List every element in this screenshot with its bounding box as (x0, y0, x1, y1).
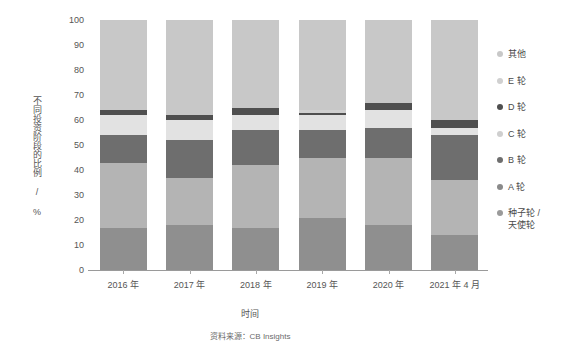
bar-segment[interactable] (365, 158, 412, 226)
legend-swatch-icon (497, 157, 503, 163)
bar-segment[interactable] (365, 110, 412, 128)
y-tick-label: 10 (58, 240, 84, 250)
bar-segment[interactable] (431, 128, 478, 136)
bar-segment[interactable] (232, 228, 279, 271)
x-tick-mark (322, 270, 323, 274)
bar-segment[interactable] (166, 178, 213, 226)
legend-item[interactable]: A 轮 (497, 181, 573, 193)
bar-segment[interactable] (100, 115, 147, 135)
x-tick-mark (123, 270, 124, 274)
x-axis-title: 时间 (0, 307, 500, 320)
x-axis-line (88, 270, 488, 271)
y-axis-title: 不同投资阶段的比例 / % (22, 96, 42, 217)
legend-item[interactable]: E 轮 (497, 75, 573, 87)
y-tick-label: 30 (58, 190, 84, 200)
legend-label: 种子轮 / 天使轮 (508, 207, 540, 231)
bar-segment[interactable] (100, 135, 147, 163)
source-note: 资料来源：CB Insights (0, 330, 500, 341)
bar-column[interactable] (431, 20, 478, 270)
stacked-bar-chart: 不同投资阶段的比例 / % 1009080706050403020100 201… (0, 0, 573, 351)
bar-column[interactable] (232, 20, 279, 270)
legend-swatch-icon (497, 51, 503, 57)
legend-label: 其他 (508, 48, 526, 60)
chart-legend: 其他E 轮D 轮C 轮B 轮A 轮种子轮 / 天使轮 (497, 48, 573, 246)
bar-segment[interactable] (431, 180, 478, 235)
bar-segment[interactable] (365, 20, 412, 103)
bar-segment[interactable] (100, 20, 147, 110)
bar-segment[interactable] (100, 163, 147, 228)
legend-swatch-icon (497, 210, 503, 216)
legend-label: E 轮 (508, 75, 526, 87)
bar-segment[interactable] (431, 20, 478, 120)
legend-swatch-icon (497, 78, 503, 84)
legend-item[interactable]: 其他 (497, 48, 573, 60)
bar-segment[interactable] (100, 228, 147, 271)
y-tick-label: 70 (58, 90, 84, 100)
bar-segment[interactable] (299, 20, 346, 110)
legend-swatch-icon (497, 131, 503, 137)
bar-segment[interactable] (431, 120, 478, 128)
plot-area (88, 20, 486, 270)
bar-segment[interactable] (299, 218, 346, 271)
y-tick-label: 100 (58, 15, 84, 25)
bar-column[interactable] (166, 20, 213, 270)
bar-segment[interactable] (365, 225, 412, 270)
x-tick-mark (455, 270, 456, 274)
x-tick-mark (389, 270, 390, 274)
legend-label: C 轮 (508, 128, 526, 140)
bar-segment[interactable] (166, 140, 213, 178)
x-tick-mark (256, 270, 257, 274)
bar-segment[interactable] (299, 130, 346, 158)
bar-segment[interactable] (232, 165, 279, 228)
y-tick-label: 40 (58, 165, 84, 175)
legend-item[interactable]: D 轮 (497, 101, 573, 113)
y-tick-label: 60 (58, 115, 84, 125)
legend-label: B 轮 (508, 154, 526, 166)
legend-label: A 轮 (508, 181, 525, 193)
bar-segment[interactable] (232, 108, 279, 116)
legend-swatch-icon (497, 104, 503, 110)
bar-column[interactable] (299, 20, 346, 270)
y-tick-label: 20 (58, 215, 84, 225)
x-tick-mark (190, 270, 191, 274)
y-tick-label: 50 (58, 140, 84, 150)
bar-segment[interactable] (232, 115, 279, 130)
legend-swatch-icon (497, 184, 503, 190)
legend-item[interactable]: B 轮 (497, 154, 573, 166)
x-tick-label: 2021 年 4 月 (415, 278, 495, 291)
bar-segment[interactable] (365, 103, 412, 111)
y-axis-ticks: 1009080706050403020100 (54, 20, 84, 270)
bar-segment[interactable] (232, 20, 279, 108)
bar-segment[interactable] (166, 120, 213, 140)
bar-column[interactable] (365, 20, 412, 270)
y-tick-label: 0 (58, 265, 84, 275)
legend-item[interactable]: C 轮 (497, 128, 573, 140)
bar-segment[interactable] (166, 20, 213, 115)
bar-segment[interactable] (431, 235, 478, 270)
bar-segment[interactable] (365, 128, 412, 158)
bar-column[interactable] (100, 20, 147, 270)
legend-item[interactable]: 种子轮 / 天使轮 (497, 207, 573, 231)
bar-segment[interactable] (431, 135, 478, 180)
bar-segment[interactable] (299, 158, 346, 218)
y-tick-label: 80 (58, 65, 84, 75)
bar-segment[interactable] (232, 130, 279, 165)
y-tick-label: 90 (58, 40, 84, 50)
bar-segment[interactable] (166, 225, 213, 270)
legend-label: D 轮 (508, 101, 526, 113)
bar-segment[interactable] (299, 115, 346, 130)
